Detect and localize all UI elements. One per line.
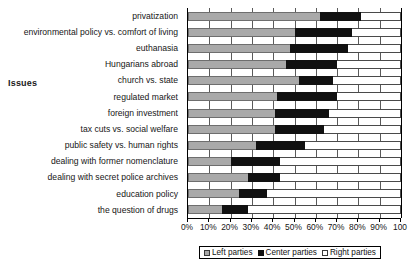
bar-segment-right-parties bbox=[248, 205, 401, 214]
category-label: environmental policy vs. comfort of livi… bbox=[0, 24, 182, 40]
x-tick-label: 0% bbox=[181, 222, 193, 232]
chart-legend: Left partiesCenter partiesRight parties bbox=[199, 246, 381, 259]
x-tick-label: 10% bbox=[200, 222, 217, 232]
legend-swatch-icon bbox=[322, 250, 328, 256]
category-label: privatization bbox=[0, 8, 182, 24]
bar-row bbox=[188, 153, 401, 169]
bar-row bbox=[188, 24, 401, 40]
category-label: tax cuts vs. social welfare bbox=[0, 121, 182, 137]
x-tick-label: 30% bbox=[243, 222, 260, 232]
stacked-bar bbox=[188, 157, 401, 166]
stacked-bar bbox=[188, 109, 401, 118]
bar-segment-left-parties bbox=[188, 12, 320, 21]
bar-segment-center-parties bbox=[239, 189, 267, 198]
bar-segment-left-parties bbox=[188, 173, 248, 182]
bar-segment-right-parties bbox=[337, 60, 401, 69]
category-label: regulated market bbox=[0, 89, 182, 105]
category-label: the question of drugs bbox=[0, 202, 182, 218]
bar-row bbox=[188, 121, 401, 137]
gridline bbox=[401, 8, 402, 218]
bar-segment-left-parties bbox=[188, 189, 239, 198]
bar-row bbox=[188, 202, 401, 218]
bar-row bbox=[188, 73, 401, 89]
bar-segment-right-parties bbox=[305, 141, 401, 150]
stacked-bar bbox=[188, 125, 401, 134]
bar-segment-left-parties bbox=[188, 109, 275, 118]
bar-row bbox=[188, 170, 401, 186]
bar-segment-center-parties bbox=[320, 12, 360, 21]
bar-row bbox=[188, 8, 401, 24]
stacked-bar bbox=[188, 141, 401, 150]
x-axis-ticks: 0%10%20%30%40%50%60%70%80%90%100 bbox=[187, 219, 400, 233]
bar-segment-left-parties bbox=[188, 157, 231, 166]
bar-segment-right-parties bbox=[348, 44, 401, 53]
bar-row bbox=[188, 137, 401, 153]
legend-swatch-icon bbox=[204, 250, 210, 256]
category-label: foreign investment bbox=[0, 105, 182, 121]
bar-segment-right-parties bbox=[329, 109, 401, 118]
bar-segment-center-parties bbox=[277, 92, 337, 101]
stacked-bar bbox=[188, 28, 401, 37]
category-label: dealing with former nomenclature bbox=[0, 153, 182, 169]
bar-segment-right-parties bbox=[324, 125, 401, 134]
x-tick-label: 60% bbox=[306, 222, 323, 232]
bar-row bbox=[188, 40, 401, 56]
bar-segment-right-parties bbox=[333, 76, 401, 85]
stacked-bar bbox=[188, 60, 401, 69]
stacked-bar bbox=[188, 205, 401, 214]
bar-segment-left-parties bbox=[188, 125, 275, 134]
bar-segment-center-parties bbox=[256, 141, 305, 150]
bar-segment-left-parties bbox=[188, 28, 295, 37]
category-label: euthanasia bbox=[0, 40, 182, 56]
bar-segment-center-parties bbox=[222, 205, 248, 214]
x-tick-label: 100 bbox=[393, 222, 407, 232]
bar-segment-center-parties bbox=[248, 173, 280, 182]
bar-segment-right-parties bbox=[280, 173, 401, 182]
bar-segment-left-parties bbox=[188, 44, 290, 53]
x-tick-label: 70% bbox=[328, 222, 345, 232]
x-tick-label: 90% bbox=[370, 222, 387, 232]
bar-segment-left-parties bbox=[188, 141, 256, 150]
x-tick-label: 40% bbox=[264, 222, 281, 232]
category-label: education policy bbox=[0, 186, 182, 202]
legend-item: Center parties bbox=[258, 248, 317, 257]
bar-row bbox=[188, 105, 401, 121]
bar-row bbox=[188, 56, 401, 72]
bar-segment-left-parties bbox=[188, 205, 222, 214]
x-tick-label: 80% bbox=[349, 222, 366, 232]
stacked-bar-chart: Issues privatizationenvironmental policy… bbox=[0, 0, 414, 268]
bar-segment-right-parties bbox=[280, 157, 401, 166]
legend-swatch-icon bbox=[258, 250, 264, 256]
bar-segment-left-parties bbox=[188, 60, 286, 69]
stacked-bar bbox=[188, 189, 401, 198]
stacked-bar bbox=[188, 76, 401, 85]
bar-segment-center-parties bbox=[275, 109, 328, 118]
stacked-bar bbox=[188, 173, 401, 182]
bar-segment-center-parties bbox=[290, 44, 348, 53]
bar-segment-right-parties bbox=[337, 92, 401, 101]
x-tick-label: 20% bbox=[221, 222, 238, 232]
bar-segment-center-parties bbox=[231, 157, 280, 166]
bar-segment-right-parties bbox=[352, 28, 401, 37]
legend-label: Left parties bbox=[212, 248, 253, 257]
category-label-list: privatizationenvironmental policy vs. co… bbox=[0, 8, 182, 218]
category-label: church vs. state bbox=[0, 73, 182, 89]
bar-segment-center-parties bbox=[299, 76, 333, 85]
x-tick-label: 50% bbox=[285, 222, 302, 232]
legend-label: Right parties bbox=[330, 248, 376, 257]
bar-segment-left-parties bbox=[188, 76, 299, 85]
legend-item: Left parties bbox=[204, 248, 253, 257]
stacked-bar bbox=[188, 12, 401, 21]
category-label: Hungarians abroad bbox=[0, 56, 182, 72]
bar-rows bbox=[188, 8, 401, 218]
legend-item: Right parties bbox=[322, 248, 376, 257]
bar-segment-left-parties bbox=[188, 92, 277, 101]
stacked-bar bbox=[188, 92, 401, 101]
bar-segment-center-parties bbox=[295, 28, 353, 37]
plot-area bbox=[187, 8, 401, 219]
bar-segment-center-parties bbox=[286, 60, 337, 69]
bar-row bbox=[188, 89, 401, 105]
category-label: dealing with secret police archives bbox=[0, 170, 182, 186]
bar-segment-right-parties bbox=[361, 12, 401, 21]
category-label: public safety vs. human rights bbox=[0, 137, 182, 153]
